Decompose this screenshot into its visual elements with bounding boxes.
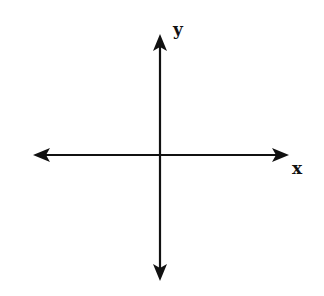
x-axis-label: x: [292, 158, 303, 178]
y-axis-label: y: [172, 19, 184, 39]
coordinate-axes-diagram: y x: [0, 0, 324, 296]
